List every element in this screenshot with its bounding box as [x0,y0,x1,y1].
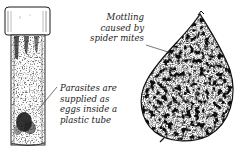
tube-caption-line: Parasites are [60,83,117,94]
leaf-stem [160,138,164,142]
tube-cap [5,7,50,35]
leaf-caption-line: spider mites [90,33,144,44]
leaf-leader-line [146,45,168,52]
leaf-caption-line: Mottling [90,12,144,23]
illustration: Mottling caused by spider mites Parasite… [0,0,250,152]
leaf-tip [198,11,204,15]
leaf-caption-line: caused by [90,23,144,34]
leaf-caption: Mottling caused by spider mites [90,12,144,44]
tube-caption-line: supplied as [60,94,117,105]
tube-caption: Parasites are supplied as eggs inside a … [60,83,117,125]
tube-caption-line: eggs inside a [60,104,117,115]
tube-caption-line: plastic tube [60,115,117,126]
tube-body [11,35,45,146]
parasite-tube [5,7,57,146]
mottled-leaf [130,10,240,150]
